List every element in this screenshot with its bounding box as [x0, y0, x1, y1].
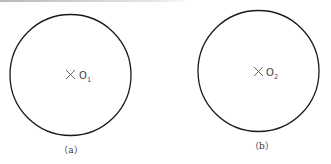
- diagram-canvas: O1 （a） O2 （b）: [0, 0, 331, 164]
- center-cross-icon-a: [66, 70, 75, 79]
- caption-b: （b）: [250, 141, 274, 151]
- caption-a: （a）: [59, 145, 82, 155]
- panel-b: O2 （b）: [198, 11, 319, 152]
- center-cross-icon-b: [254, 67, 263, 76]
- center-label-a: O1: [79, 70, 91, 84]
- panel-a: O1 （a）: [10, 15, 131, 156]
- center-label-b: O2: [266, 67, 278, 81]
